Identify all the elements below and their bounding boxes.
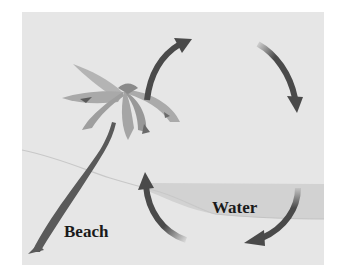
water-label: Water — [212, 199, 257, 216]
arrow-up-left — [138, 172, 186, 240]
sea-breeze-diagram — [0, 0, 340, 279]
arrow-up-right — [147, 38, 192, 100]
arrow-down-right — [258, 44, 303, 113]
palm-fronds — [62, 64, 180, 140]
beach-label: Beach — [64, 223, 108, 240]
